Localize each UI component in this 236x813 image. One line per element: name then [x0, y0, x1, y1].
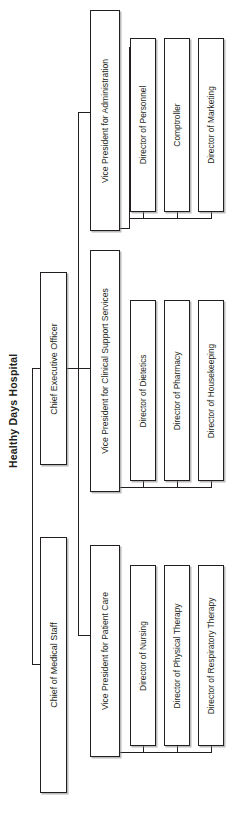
- node-label: Director of Physical Therapy: [173, 603, 181, 708]
- page-title: Healthy Days Hospital: [2, 268, 24, 468]
- node-label: Director of Nursing: [139, 621, 147, 691]
- node-label: Chief of Medical Staff: [49, 622, 58, 707]
- connector-clinical-housekeeping: [129, 487, 212, 488]
- connector-vp-spine: [78, 112, 79, 636]
- node-vp-administration[interactable]: Vice President for Administration: [90, 10, 120, 231]
- node-vp-patient-care[interactable]: Vice President for Patient Care: [90, 545, 120, 757]
- node-label: Chief Executive Officer: [49, 323, 58, 414]
- connector-cms-spine: [32, 368, 33, 665]
- node-label: Vice President for Patient Care: [101, 592, 110, 710]
- connector-admin-marketing: [129, 218, 212, 219]
- connector-admin-drop-personnel: [143, 212, 144, 219]
- node-director-of-pharmacy[interactable]: Director of Pharmacy: [164, 300, 190, 481]
- node-director-of-personnel[interactable]: Director of Personnel: [130, 38, 156, 212]
- connector-patient-drop-nursing: [143, 746, 144, 753]
- node-label: Director of Dietetics: [139, 354, 147, 427]
- connector-admin-drop-comptroller: [177, 212, 178, 219]
- node-comptroller[interactable]: Comptroller: [164, 38, 190, 212]
- node-chief-of-medical-staff[interactable]: Chief of Medical Staff: [40, 537, 67, 793]
- node-director-of-nursing[interactable]: Director of Nursing: [130, 565, 156, 746]
- node-director-of-physical-therapy[interactable]: Director of Physical Therapy: [164, 565, 190, 746]
- node-chief-executive-officer[interactable]: Chief Executive Officer: [40, 272, 67, 465]
- node-vp-clinical-support-services[interactable]: Vice President for Clinical Support Serv…: [90, 250, 120, 492]
- node-label: Director of Respiratory Therapy: [207, 597, 215, 714]
- connector-clinical-drop-dietetics: [143, 481, 144, 488]
- connector-patient-drop-physical: [177, 746, 178, 753]
- node-label: Comptroller: [173, 103, 181, 146]
- connector-vp-admin: [78, 112, 90, 113]
- connector-clinical-drop-housekeeping: [211, 481, 212, 488]
- connector-vp-clinical: [78, 368, 90, 369]
- node-director-of-respiratory-therapy[interactable]: Director of Respiratory Therapy: [198, 565, 224, 746]
- node-label: Director of Housekeeping: [207, 343, 215, 438]
- connector-clinical-drop-pharmacy: [177, 481, 178, 488]
- connector-vp-patient: [78, 635, 90, 636]
- node-director-of-marketing[interactable]: Director of Marketing: [198, 38, 224, 212]
- node-label: Vice President for Clinical Support Serv…: [101, 288, 110, 454]
- node-label: Vice President for Administration: [101, 58, 110, 182]
- node-label: Director of Marketing: [207, 86, 215, 164]
- org-chart-canvas: Healthy Days Hospital Chief Executive Of…: [0, 0, 236, 813]
- connector-admin-drop-marketing: [211, 212, 212, 219]
- node-director-of-housekeeping[interactable]: Director of Housekeeping: [198, 300, 224, 481]
- node-label: Director of Personnel: [139, 86, 147, 165]
- node-director-of-dietetics[interactable]: Director of Dietetics: [130, 300, 156, 481]
- node-label: Director of Pharmacy: [173, 351, 181, 430]
- connector-patient-drop-respiratory: [211, 746, 212, 753]
- connector-patient-respiratory: [129, 752, 212, 753]
